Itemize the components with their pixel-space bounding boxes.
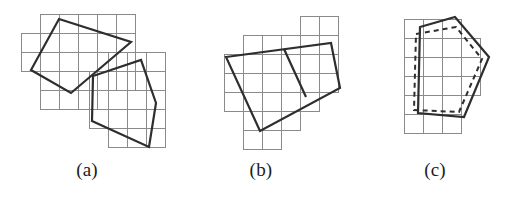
grid-cell	[116, 14, 135, 33]
grid-cell	[423, 38, 442, 57]
grid-cell	[243, 54, 262, 73]
grid-cell	[442, 38, 461, 57]
grid-cell	[108, 128, 127, 147]
grid-cell	[116, 33, 135, 52]
grid-cell	[127, 90, 146, 109]
grid-cell	[59, 52, 78, 71]
grid-cell	[319, 73, 338, 92]
grid-cell	[262, 130, 281, 149]
grid-cell	[461, 57, 480, 76]
grid-cell	[59, 33, 78, 52]
grid-cell	[127, 109, 146, 128]
grid-cell	[21, 33, 40, 52]
grid-cell	[127, 71, 146, 90]
grid-cell	[78, 90, 97, 109]
grid-cell	[262, 54, 281, 73]
grid-cell	[108, 109, 127, 128]
grid-main	[224, 16, 338, 149]
grid-upper	[21, 14, 135, 109]
grid-cell	[78, 52, 97, 71]
panel-b-canvas	[174, 0, 348, 160]
grid-cell	[262, 92, 281, 111]
grid-cell	[300, 54, 319, 73]
grid-cell	[40, 52, 59, 71]
grid-lower	[89, 52, 165, 147]
grid-cell	[423, 57, 442, 76]
grid-cell	[21, 52, 40, 71]
panel-a-canvas	[0, 0, 174, 160]
panel-c-caption: (c)	[348, 158, 522, 182]
grid-cell	[423, 76, 442, 95]
figure-panel-c: (c)	[348, 0, 522, 197]
grid-cell	[108, 71, 127, 90]
grid-cell	[243, 35, 262, 54]
figure-panel-a: (a)	[0, 0, 174, 197]
grid-cell	[108, 90, 127, 109]
figure-panel-b: (b)	[174, 0, 348, 197]
panel-a-caption: (a)	[0, 158, 174, 182]
grid-cell	[146, 52, 165, 71]
grid-cell	[423, 114, 442, 133]
grid-cell	[224, 92, 243, 111]
figure-container: (a) (b) (c)	[0, 0, 522, 197]
grid-cell	[243, 73, 262, 92]
grid-cell	[404, 114, 423, 133]
grid-cell	[243, 130, 262, 149]
grid-cell	[97, 14, 116, 33]
grid-cell	[442, 76, 461, 95]
grid-cell	[300, 16, 319, 35]
grid-cell	[59, 90, 78, 109]
panel-c-canvas	[348, 0, 522, 160]
grid-cell	[262, 73, 281, 92]
grid-cell	[281, 92, 300, 111]
grid-cell	[319, 16, 338, 35]
grid-cell	[442, 57, 461, 76]
grid-cell	[116, 71, 135, 90]
grid-cell	[40, 90, 59, 109]
grid-cell	[78, 33, 97, 52]
panel-b-caption: (b)	[174, 158, 348, 182]
